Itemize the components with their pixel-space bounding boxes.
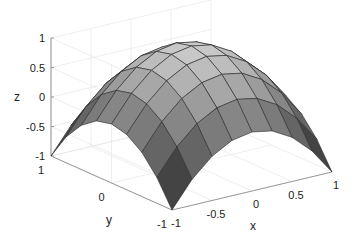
surface-mesh [51, 42, 332, 210]
x-tick-label: 0 [253, 198, 259, 210]
y-tick-label: 0 [98, 191, 104, 203]
z-tick-label: -1 [35, 150, 45, 162]
z-tick-label: 0.5 [30, 62, 45, 74]
surface-plot: -1-0.500.51-101-1-0.500.51 z y x [0, 0, 352, 238]
y-axis-label: y [106, 213, 112, 227]
x-tick-label: 1 [333, 179, 339, 191]
z-axis-label: z [14, 90, 20, 104]
z-tick-label: 1 [39, 32, 45, 44]
z-tick-label: 0 [39, 91, 45, 103]
x-tick-label: -0.5 [207, 208, 226, 220]
x-tick-label: 0.5 [288, 189, 303, 201]
y-tick-label: -1 [157, 218, 167, 230]
x-axis-label: x [250, 219, 256, 233]
y-tick-label: 1 [38, 164, 44, 176]
x-tick-label: -1 [171, 217, 181, 229]
z-tick-label: -0.5 [26, 121, 45, 133]
